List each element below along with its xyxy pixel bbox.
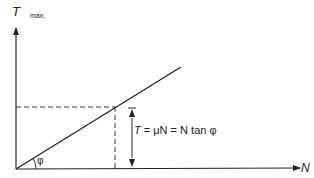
angle-label: φ <box>37 155 43 166</box>
equation-t: T <box>134 124 141 136</box>
x-axis <box>16 168 300 169</box>
t-arrow-down-head <box>129 159 135 167</box>
equation-rest: = μN = N tan φ <box>141 124 217 136</box>
t-arrow-up-head <box>129 109 135 117</box>
y-axis-subscript: max. <box>30 12 45 19</box>
friction-diagram: T max. N φ T = μN = N tan φ <box>0 0 314 178</box>
x-axis-label: N <box>301 161 310 175</box>
friction-equation: T = μN = N tan φ <box>134 124 217 136</box>
friction-line <box>16 67 181 169</box>
diagram-graphics <box>0 0 314 178</box>
angle-arc <box>33 158 36 169</box>
y-axis-label: T <box>12 4 20 19</box>
